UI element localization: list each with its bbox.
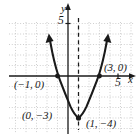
x-axis-tick-label-5: 5 bbox=[115, 77, 121, 89]
point-label-x-intercept-left: (−1, 0) bbox=[14, 79, 44, 90]
point-x-intercept-left bbox=[55, 74, 60, 79]
point-x-intercept-right bbox=[97, 74, 102, 79]
y-axis-tick-label-5: 5 bbox=[58, 15, 64, 27]
parabola-graph-figure: 5 5 y x (−1, 0) (0, −3) (1, −4) (3, 0) bbox=[0, 0, 138, 136]
left-branch-arrow bbox=[46, 34, 54, 44]
y-axis bbox=[65, 3, 71, 134]
x-axis-label: x bbox=[128, 74, 133, 85]
point-label-x-intercept-right: (3, 0) bbox=[104, 62, 127, 73]
point-vertex bbox=[76, 115, 81, 120]
point-label-y-intercept: (0, −3) bbox=[22, 110, 52, 121]
right-branch-arrow bbox=[103, 34, 111, 44]
point-label-vertex: (1, −4) bbox=[86, 118, 116, 129]
y-axis-label: y bbox=[61, 3, 66, 14]
